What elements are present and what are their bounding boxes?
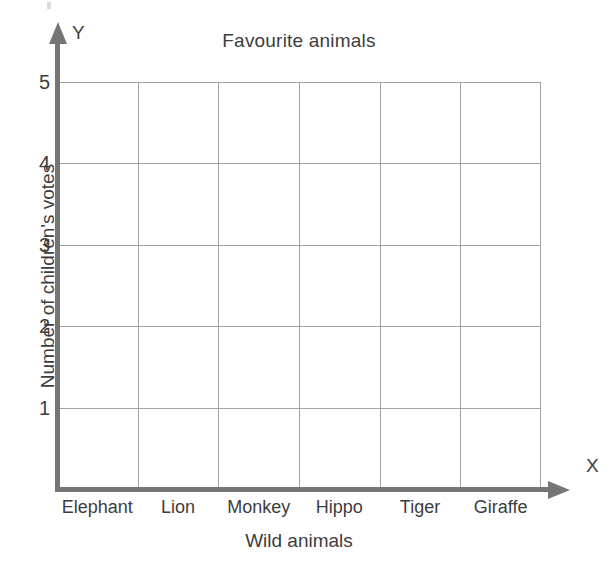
x-category-label-lion: Lion	[138, 497, 219, 523]
x-category-label-giraffe: Giraffe	[460, 497, 541, 523]
y-axis-marker-label: Y	[72, 22, 85, 44]
y-tick-label-4: 4	[22, 152, 50, 175]
scan-artifact	[47, 2, 51, 9]
y-tick-label-2: 2	[22, 315, 50, 338]
x-category-label-tiger: Tiger	[380, 497, 461, 523]
x-category-label-hippo: Hippo	[299, 497, 380, 523]
gridline-vertical-2	[218, 82, 219, 489]
gridline-vertical-5	[460, 82, 461, 489]
plot-area	[57, 82, 541, 489]
gridline-vertical-3	[299, 82, 300, 489]
gridline-vertical-4	[380, 82, 381, 489]
x-axis-title: Wild animals	[57, 530, 541, 552]
x-axis-category-labels: Elephant Lion Monkey Hippo Tiger Giraffe	[57, 497, 541, 523]
y-tick-label-5: 5	[22, 71, 50, 94]
gridline-vertical-1	[138, 82, 139, 489]
gridline-vertical-6	[540, 82, 541, 489]
x-axis-line	[55, 487, 550, 492]
y-axis-arrow-icon	[49, 22, 67, 44]
x-category-label-monkey: Monkey	[218, 497, 299, 523]
y-tick-label-3: 3	[22, 233, 50, 256]
x-axis-arrow-icon	[548, 481, 570, 499]
y-tick-label-1: 1	[22, 396, 50, 419]
chart-title: Favourite animals	[57, 30, 541, 52]
chart-screenshot: Favourite animals Number of children's v…	[0, 0, 616, 563]
y-axis-tick-labels: 5 4 3 2 1	[14, 82, 50, 489]
x-category-label-elephant: Elephant	[57, 497, 138, 523]
x-axis-marker-label: X	[586, 455, 599, 477]
y-axis-line	[55, 42, 60, 491]
